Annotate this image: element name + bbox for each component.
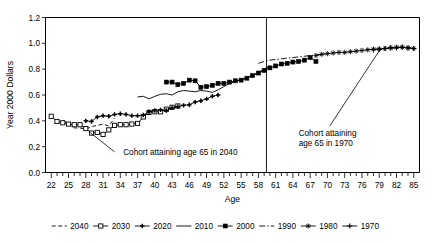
data-point-marker <box>313 53 318 58</box>
data-point-marker <box>187 102 191 106</box>
series-line-2010 <box>138 66 270 99</box>
cohort-earnings-line-chart: 0.00.20.40.60.81.01.22225283134374043464… <box>0 0 432 243</box>
data-point-marker <box>135 121 139 125</box>
data-point-marker <box>101 113 105 117</box>
data-point-marker <box>199 99 203 103</box>
data-point-marker <box>394 45 399 50</box>
legend-label-2000: 2000 <box>236 222 255 231</box>
chart-container: 0.00.20.40.60.81.01.22225283134374043464… <box>0 0 432 243</box>
y-tick-label: 0.8 <box>29 65 41 74</box>
y-axis-title: Year 2000 Dollars <box>5 61 15 129</box>
data-point-marker <box>193 100 197 104</box>
data-point-marker <box>107 128 111 132</box>
data-point-marker <box>193 79 197 83</box>
data-point-marker <box>268 66 272 70</box>
data-point-marker <box>99 224 103 228</box>
x-axis-title: Age <box>225 194 241 204</box>
legend-label-2020: 2020 <box>153 222 172 231</box>
data-point-marker <box>140 224 144 228</box>
data-point-marker <box>319 52 324 57</box>
x-tick-label: 31 <box>98 181 108 190</box>
annotation-1970-line2: age 65 in 1970 <box>299 139 354 148</box>
data-point-marker <box>112 123 116 127</box>
data-point-marker <box>365 47 370 52</box>
data-point-marker <box>359 48 364 53</box>
data-point-marker <box>55 119 59 123</box>
annotation-1970-line1: Cohort attaining <box>299 129 357 138</box>
x-tick-label: 79 <box>375 181 385 190</box>
data-point-marker <box>306 223 311 228</box>
data-point-marker <box>251 74 255 78</box>
x-tick-label: 40 <box>150 181 160 190</box>
plot-layer: 0.00.20.40.60.81.01.22225283134374043464… <box>5 14 420 232</box>
data-point-marker <box>274 64 278 68</box>
data-point-marker <box>354 48 359 53</box>
data-point-marker <box>49 114 53 118</box>
data-point-marker <box>199 85 203 89</box>
x-tick-label: 61 <box>271 181 281 190</box>
data-point-marker <box>228 80 232 84</box>
data-point-marker <box>135 113 139 117</box>
x-tick-label: 46 <box>185 181 195 190</box>
data-point-marker <box>245 76 249 80</box>
legend-label-1970: 1970 <box>361 222 380 231</box>
x-tick-label: 82 <box>392 181 402 190</box>
data-point-marker <box>210 83 214 87</box>
data-point-marker <box>348 49 353 54</box>
data-point-marker <box>84 119 88 123</box>
y-tick-label: 1.2 <box>29 14 41 23</box>
data-point-marker <box>124 123 128 127</box>
data-point-marker <box>325 51 330 56</box>
data-point-marker <box>118 112 122 116</box>
x-tick-label: 37 <box>133 181 143 190</box>
data-point-marker <box>210 94 214 98</box>
data-point-marker <box>170 80 174 84</box>
legend-label-2040: 2040 <box>70 222 89 231</box>
data-point-marker <box>216 81 220 85</box>
data-point-marker <box>84 126 88 130</box>
data-point-marker <box>187 78 191 82</box>
x-tick-label: 58 <box>254 181 264 190</box>
data-point-marker <box>262 68 266 72</box>
data-point-marker <box>61 121 65 125</box>
data-point-marker <box>118 123 122 127</box>
data-point-marker <box>297 59 301 63</box>
x-tick-label: 67 <box>306 181 316 190</box>
data-point-marker <box>95 130 99 134</box>
data-point-marker <box>66 122 70 126</box>
data-point-marker <box>314 59 318 63</box>
data-point-marker <box>78 123 82 127</box>
x-tick-label: 64 <box>288 181 298 190</box>
x-tick-label: 28 <box>81 181 91 190</box>
data-point-marker <box>233 79 237 83</box>
data-point-marker <box>181 103 185 107</box>
data-point-marker <box>124 112 128 116</box>
data-point-marker <box>336 50 341 55</box>
x-tick-label: 25 <box>64 181 74 190</box>
data-point-marker <box>164 80 168 84</box>
x-tick-label: 85 <box>409 181 419 190</box>
data-point-marker <box>101 132 105 136</box>
data-point-marker <box>342 50 347 55</box>
x-tick-label: 34 <box>116 181 126 190</box>
x-tick-label: 55 <box>237 181 247 190</box>
legend-label-1980: 1980 <box>319 222 338 231</box>
annotation-2040-line1: Cohort attaining age 65 in 2040 <box>123 148 238 157</box>
x-tick-label: 52 <box>219 181 229 190</box>
x-tick-label: 49 <box>202 181 212 190</box>
data-point-marker <box>176 83 180 87</box>
data-point-marker <box>302 58 306 62</box>
y-tick-label: 0.6 <box>29 91 41 100</box>
data-point-marker <box>107 114 111 118</box>
series-line-1980 <box>316 47 414 55</box>
y-tick-label: 0.2 <box>29 143 41 152</box>
data-point-marker <box>347 223 352 228</box>
data-point-marker <box>222 81 226 85</box>
data-point-marker <box>285 61 289 65</box>
data-point-marker <box>112 112 116 116</box>
x-tick-label: 76 <box>357 181 367 190</box>
data-point-marker <box>331 50 336 55</box>
data-point-marker <box>182 81 186 85</box>
annotation-1970-leader <box>330 49 381 126</box>
x-tick-label: 73 <box>340 181 350 190</box>
